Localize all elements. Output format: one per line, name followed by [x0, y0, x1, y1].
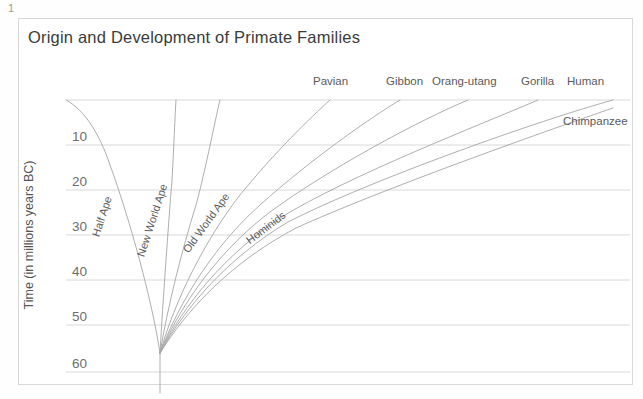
figure-frame	[18, 18, 633, 385]
page-canvas: 1 Origin and Development of Primate Fami…	[0, 0, 643, 399]
page-title: Origin and Development of Primate Famili…	[28, 28, 360, 47]
page-number: 1	[8, 2, 15, 14]
